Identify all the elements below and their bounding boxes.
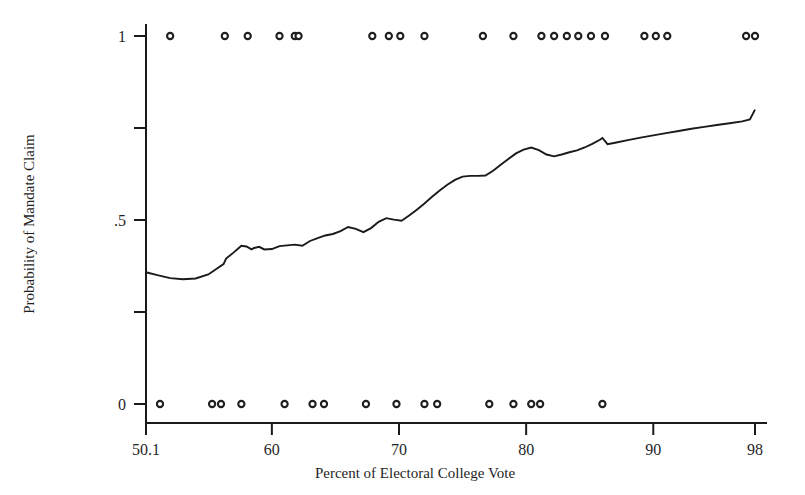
scatter-point (588, 33, 594, 39)
scatter-point (238, 401, 244, 407)
x-tick-label: 90 (645, 441, 661, 458)
chart-background (0, 0, 805, 495)
scatter-point (157, 401, 163, 407)
y-tick-label: 1 (118, 28, 126, 45)
scatter-point (528, 401, 534, 407)
scatter-point (309, 401, 315, 407)
y-axis-title: Probability of Mandate Claim (21, 134, 37, 314)
scatter-point (575, 33, 581, 39)
scatter-point (321, 401, 327, 407)
scatter-point (295, 33, 301, 39)
scatter-point (486, 401, 492, 407)
scatter-point (510, 401, 516, 407)
x-tick-label: 60 (264, 441, 280, 458)
scatter-point (641, 33, 647, 39)
x-tick-label: 70 (391, 441, 407, 458)
scatter-point (653, 33, 659, 39)
scatter-point (167, 33, 173, 39)
x-tick-label: 50.1 (132, 441, 160, 458)
y-tick-label: 0 (118, 396, 126, 413)
scatter-point (369, 33, 375, 39)
x-tick-label: 98 (747, 441, 763, 458)
scatter-point (209, 401, 215, 407)
scatter-point (752, 33, 758, 39)
scatter-point (434, 401, 440, 407)
scatter-point (363, 401, 369, 407)
scatter-point (386, 33, 392, 39)
scatter-point (218, 401, 224, 407)
y-tick-label: .5 (114, 212, 126, 229)
x-tick-label: 80 (518, 441, 534, 458)
scatter-point (281, 401, 287, 407)
scatter-point (564, 33, 570, 39)
scatter-point (245, 33, 251, 39)
scatter-point (276, 33, 282, 39)
scatter-point (397, 33, 403, 39)
scatter-point (510, 33, 516, 39)
scatter-point (480, 33, 486, 39)
scatter-point (551, 33, 557, 39)
scatter-point (393, 401, 399, 407)
scatter-point (538, 33, 544, 39)
scatter-point (421, 33, 427, 39)
scatter-point (664, 33, 670, 39)
scatter-point (222, 33, 228, 39)
chart-figure: 0.51 50.16070809098 Percent of Electoral… (0, 0, 805, 495)
scatter-point (743, 33, 749, 39)
probability-of-mandate-claim-chart: 0.51 50.16070809098 Percent of Electoral… (0, 0, 805, 495)
scatter-point (537, 401, 543, 407)
scatter-point (599, 401, 605, 407)
x-axis-title: Percent of Electoral College Vote (315, 465, 516, 481)
scatter-point (421, 401, 427, 407)
scatter-point (602, 33, 608, 39)
